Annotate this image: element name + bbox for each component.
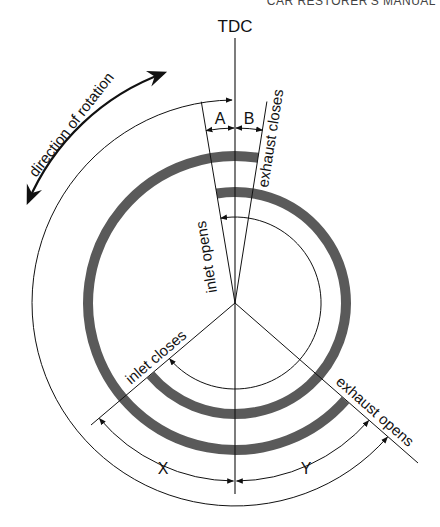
dimension-y-label: Y <box>301 460 312 477</box>
inlet-opens-label: inlet opens <box>192 220 220 294</box>
exhaust-period-ring <box>88 156 345 450</box>
inlet-duration-arc <box>170 217 321 389</box>
tdc-label: TDC <box>218 17 253 36</box>
exhaust-closes-label: exhaust closes <box>254 88 286 189</box>
valve-timing-diagram: TDC direction of rotation A B exhaust cl… <box>0 0 440 527</box>
exhaust-opens-label: exhaust opens <box>333 372 418 449</box>
dimension-x-label: X <box>158 460 169 477</box>
rotation-label: direction of rotation <box>25 69 117 180</box>
dimension-a-arc <box>206 128 234 131</box>
dimension-b-arc <box>236 128 262 130</box>
exhaust-opens-line <box>235 303 418 463</box>
dimension-a-label: A <box>215 110 226 127</box>
inlet-closes-line <box>91 303 235 425</box>
dimension-b-label: B <box>244 110 255 127</box>
inlet-period-ring <box>151 192 346 414</box>
